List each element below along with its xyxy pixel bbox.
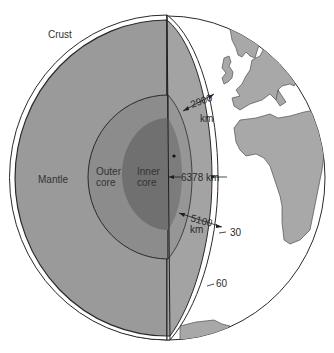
- center-dot: [172, 154, 175, 157]
- label-outer-core-1: Outer: [96, 166, 122, 177]
- earth-interior-diagram: Crust Mantle Outer core Inner core 2900 …: [0, 0, 334, 353]
- outer-core-depth-unit: km: [190, 224, 203, 235]
- label-crust: Crust: [48, 29, 72, 40]
- mantle-depth-unit: km: [200, 113, 213, 124]
- label-inner-core-2: core: [137, 177, 157, 188]
- label-outer-core-2: core: [96, 177, 116, 188]
- label-inner-core-1: Inner: [137, 166, 160, 177]
- label-mantle: Mantle: [38, 174, 68, 185]
- lat-60-label: 60: [216, 278, 228, 289]
- lat-30-label: 30: [230, 227, 242, 238]
